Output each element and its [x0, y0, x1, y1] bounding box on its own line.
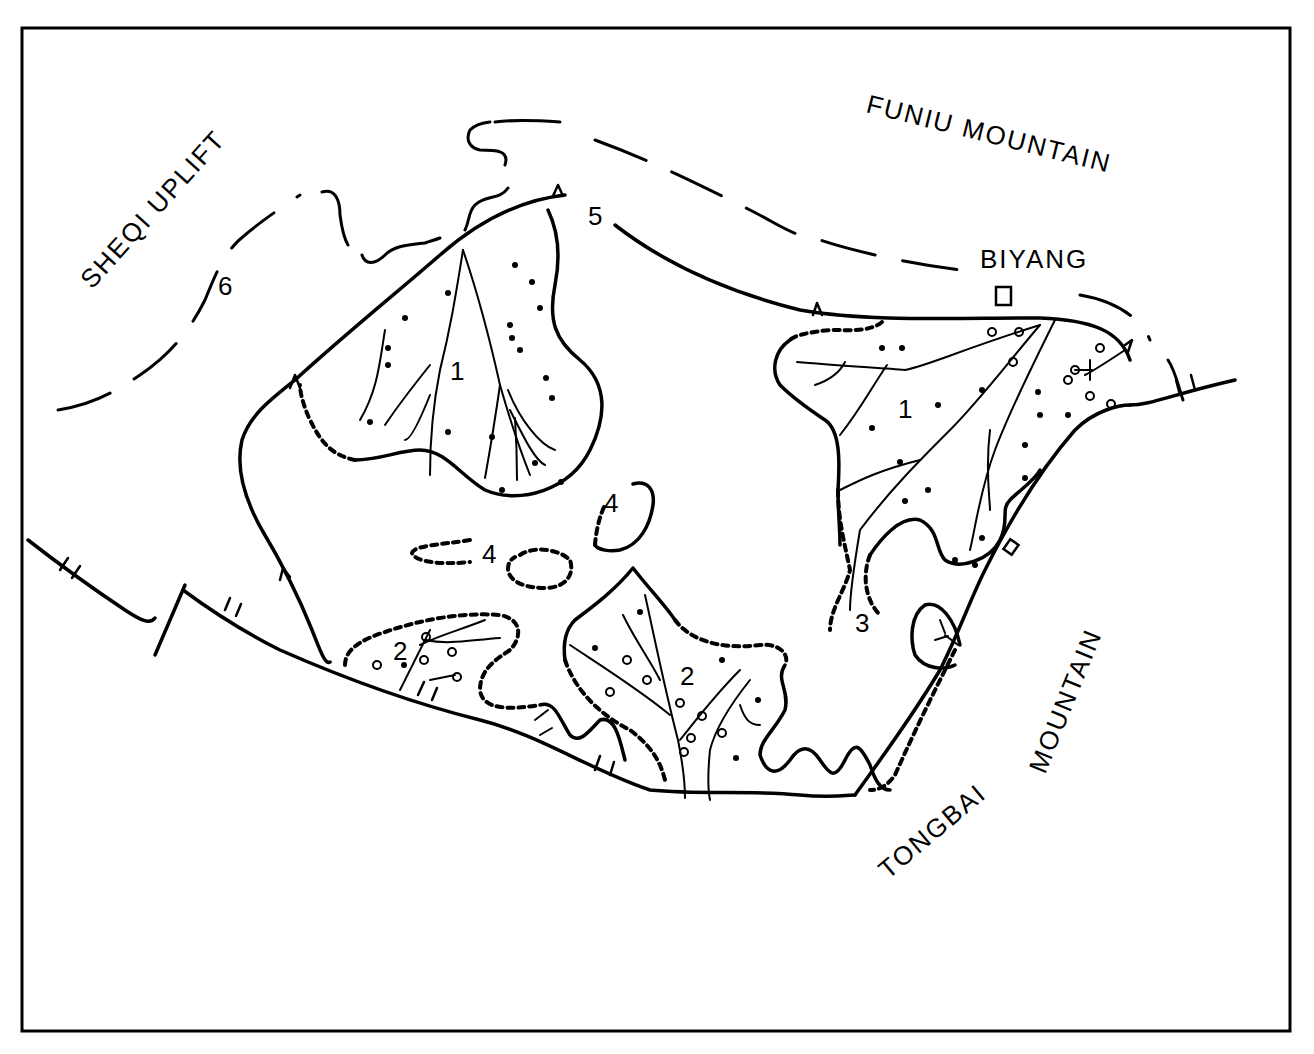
fan-2-center-dotted	[565, 620, 786, 780]
fan-1-east-dotted-tail	[830, 490, 850, 630]
label-fan-2-center: 2	[680, 661, 694, 691]
label-lobe-3: 3	[855, 608, 869, 638]
east-boundary-fault	[855, 405, 1130, 795]
fan-2-center-outline	[564, 568, 675, 660]
wavy-contact-line-2	[465, 121, 560, 231]
fan-1-east-dotted-top	[790, 322, 882, 340]
map-frame	[22, 28, 1290, 1031]
basin-boundary-fault	[295, 195, 1235, 405]
label-fan-1-west: 1	[450, 356, 464, 386]
lobe-oval	[508, 550, 571, 588]
east-fault-marker	[1003, 539, 1018, 555]
label-tongbai: TONGBAI	[873, 778, 992, 885]
geologic-sketch-map: SHEQI UPLIFT FUNIU MOUNTAIN BIYANG TONGB…	[0, 0, 1314, 1054]
fault-offset	[155, 585, 185, 655]
label-funiu-mountain: FUNIU MOUNTAIN	[864, 89, 1115, 179]
label-biyang: BIYANG	[980, 244, 1088, 274]
label-mountain: MOUNTAIN	[1023, 624, 1108, 777]
label-lobe-4-a: 4	[482, 539, 496, 569]
sand-dots	[367, 262, 1071, 761]
label-boundary-6: 6	[218, 271, 232, 301]
fan-1-west-outline	[355, 210, 602, 496]
fan-1-west-dotted-edge	[300, 385, 355, 460]
boundary-line-6	[58, 195, 300, 410]
fan-1-east-channels	[797, 320, 1125, 610]
biyang-town-marker	[996, 287, 1011, 305]
south-boundary-fault	[28, 540, 855, 796]
boundary-line-5	[595, 140, 1150, 340]
basin-west-boundary	[240, 380, 330, 662]
wavy-contact-line	[322, 191, 440, 262]
lobe-east-fault-dotted	[870, 650, 955, 790]
label-lobe-4-b: 4	[604, 488, 618, 518]
lobe-east-fault	[912, 604, 960, 668]
label-sheqi-uplift: SHEQI UPLIFT	[74, 124, 231, 294]
fan-2-west-wavy-edge	[540, 704, 625, 760]
label-boundary-5: 5	[588, 201, 602, 231]
label-fan-1-east: 1	[898, 394, 912, 424]
fan-2-center-wavy-edge	[760, 665, 890, 790]
label-fan-2-west: 2	[393, 636, 407, 666]
lobe-4-a	[412, 540, 470, 563]
fan-1-east-dotted-tail-2	[866, 555, 880, 615]
